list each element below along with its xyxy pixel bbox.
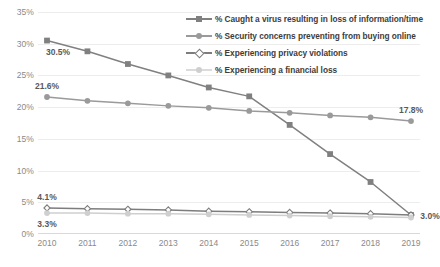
data-point: [327, 213, 333, 219]
legend-marker-icon: [186, 47, 212, 58]
legend-point: [196, 67, 202, 73]
data-point: [44, 210, 50, 216]
x-axis-tick-label: 2016: [280, 238, 299, 248]
data-point: [206, 105, 212, 111]
y-axis-tick-label: 10%: [17, 166, 34, 176]
legend-item-0[interactable]: % Caught a virus resulting in loss of in…: [186, 10, 426, 27]
x-axis-tick-label: 2010: [38, 238, 57, 248]
data-point: [85, 48, 91, 54]
data-label: 30.5%: [46, 47, 70, 57]
y-axis-tick-label: 25%: [17, 70, 34, 80]
legend-marker-icon: [186, 64, 212, 75]
data-point: [287, 110, 293, 116]
legend-point: [196, 33, 202, 39]
data-point: [125, 61, 131, 67]
data-point: [125, 211, 131, 217]
data-point: [165, 73, 171, 79]
data-label: 4.1%: [37, 192, 56, 202]
series-line: [47, 97, 411, 121]
data-label: 3.0%: [420, 211, 439, 221]
data-point: [327, 151, 333, 157]
legend-label: % Security concerns preventing from buyi…: [215, 31, 416, 41]
legend-point: [196, 16, 202, 22]
legend-item-3[interactable]: % Experiencing a financial loss: [186, 61, 426, 78]
y-axis-tick-label: 15%: [17, 134, 34, 144]
data-point: [246, 93, 252, 99]
x-axis-tick-label: 2013: [159, 238, 178, 248]
x-axis-tick-label: 2017: [321, 238, 340, 248]
legend-item-1[interactable]: % Security concerns preventing from buyi…: [186, 27, 426, 44]
data-point: [246, 212, 252, 218]
x-axis-tick-label: 2014: [199, 238, 218, 248]
y-axis-tick-label: 30%: [17, 39, 34, 49]
data-point: [327, 112, 333, 118]
legend-item-2[interactable]: % Experiencing privacy violations: [186, 44, 426, 61]
y-axis-tick-label: 5%: [22, 197, 35, 207]
chart-legend: % Caught a virus resulting in loss of in…: [186, 10, 426, 78]
y-axis-tick-label: 35%: [17, 7, 34, 17]
data-point: [287, 122, 293, 128]
x-axis-tick-label: 2011: [78, 238, 96, 248]
x-axis-tick-label: 2019: [402, 238, 421, 248]
data-point: [44, 38, 50, 44]
legend-point: [195, 48, 205, 58]
data-label: 3.3%: [37, 219, 56, 229]
legend-label: % Caught a virus resulting in loss of in…: [215, 14, 423, 24]
data-point: [165, 211, 171, 217]
y-axis: 0%5%10%15%20%25%30%35%: [0, 0, 34, 267]
data-point: [408, 215, 414, 221]
x-axis-tick-label: 2015: [240, 238, 259, 248]
legend-label: % Experiencing a financial loss: [215, 65, 337, 75]
data-point: [85, 98, 91, 104]
data-label: 21.6%: [35, 81, 59, 91]
x-axis-tick-label: 2012: [118, 238, 137, 248]
data-label: 17.8%: [399, 105, 423, 115]
y-axis-tick-label: 20%: [17, 102, 34, 112]
x-axis-tick-label: 2018: [361, 238, 380, 248]
legend-label: % Experiencing privacy violations: [215, 48, 348, 58]
data-point: [408, 118, 414, 124]
data-point: [85, 210, 91, 216]
data-point: [165, 103, 171, 109]
x-axis-line: [38, 233, 420, 234]
data-point: [368, 114, 374, 120]
legend-marker-icon: [186, 13, 212, 24]
data-point: [368, 179, 374, 185]
y-axis-tick-label: 0%: [22, 229, 35, 239]
data-point: [287, 213, 293, 219]
data-point: [206, 211, 212, 217]
data-point: [44, 94, 50, 100]
data-point: [246, 108, 252, 114]
data-point: [125, 100, 131, 106]
series-1: [44, 94, 414, 124]
data-point: [206, 85, 212, 91]
data-point: [368, 214, 374, 220]
data-point: [44, 205, 50, 211]
legend-marker-icon: [186, 30, 212, 41]
